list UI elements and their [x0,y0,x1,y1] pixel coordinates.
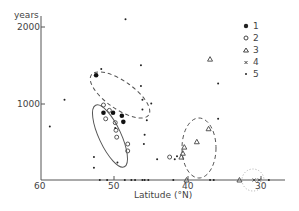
data-point-series-5 [217,83,219,85]
data-point-series-5 [141,109,143,111]
data-point-series-2 [126,142,130,146]
legend-label-2: 2 [253,33,259,43]
data-point-series-2 [107,108,111,112]
data-point-series-5 [209,179,211,181]
y-tick-label-2000: 2000 [17,22,40,32]
x-tick-label-60: 60 [34,181,46,191]
legend: 1 2 3 4 5 [244,21,260,79]
data-point-series-1 [94,73,99,78]
legend-open-circle-icon [244,36,248,40]
data-point-series-5 [146,119,148,121]
scatter-plot: years 2000 1000 60 50 40 30 Latitude (°N… [0,0,299,211]
data-point-series-5 [49,125,51,127]
legend-cross-icon [245,61,248,64]
data-point-series-2 [168,155,172,159]
data-point-series-5 [64,99,66,101]
data-point-series-5 [144,179,146,181]
data-points [49,18,270,182]
legend-label-4: 4 [253,57,259,67]
data-point-series-5 [213,179,215,181]
data-point-series-1 [120,113,125,118]
legend-label-5: 5 [253,69,259,79]
data-point-series-5 [93,156,95,158]
legend-filled-circle-icon [244,24,248,28]
data-point-series-5 [172,179,174,181]
data-point-series-5 [150,103,152,105]
data-point-series-3 [206,126,211,130]
x-tick-label-30: 30 [255,181,267,191]
data-point-series-5 [174,158,176,160]
data-point-series-5 [125,18,127,20]
data-point-series-5 [99,179,101,181]
data-point-series-5 [116,161,118,163]
data-point-series-5 [93,167,95,169]
data-point-series-2 [115,135,119,139]
data-point-series-5 [100,68,102,70]
data-point-series-5 [156,158,158,160]
data-point-series-5 [140,85,142,87]
data-point-series-5 [106,179,108,181]
data-point-series-5 [130,179,132,181]
data-point-series-5 [134,179,136,181]
data-point-series-3 [182,145,187,150]
data-point-series-3 [208,57,213,62]
legend-triangle-icon [244,48,249,52]
data-point-series-2 [104,117,108,121]
data-point-series-5 [147,179,149,181]
data-point-series-5 [114,127,116,129]
data-point-series-5 [124,179,126,181]
data-point-series-5 [141,179,143,181]
chart-container: years 2000 1000 60 50 40 30 Latitude (°N… [0,0,299,211]
group3-dashed-ellipse [182,118,216,178]
data-point-series-1 [101,110,106,115]
data-point-series-5 [268,179,270,181]
data-point-series-1 [121,120,126,125]
group2-solid-ellipse [86,101,135,172]
data-point-series-5 [144,134,146,136]
data-point-series-5 [217,118,219,120]
legend-dot-icon [245,73,247,75]
x-axis-title: Latitude (°N) [134,190,192,200]
data-point-series-5 [176,155,178,157]
legend-label-3: 3 [253,45,259,55]
data-point-series-3 [194,139,199,144]
data-point-series-2 [101,103,105,107]
data-point-series-5 [141,99,143,101]
data-point-series-2 [114,128,118,132]
y-axis-title: years [14,10,39,20]
data-point-series-5 [143,143,145,145]
y-tick-label-1000: 1000 [17,99,40,109]
data-point-series-5 [140,64,142,66]
x-tick-label-50: 50 [108,181,120,191]
legend-label-1: 1 [253,21,259,31]
